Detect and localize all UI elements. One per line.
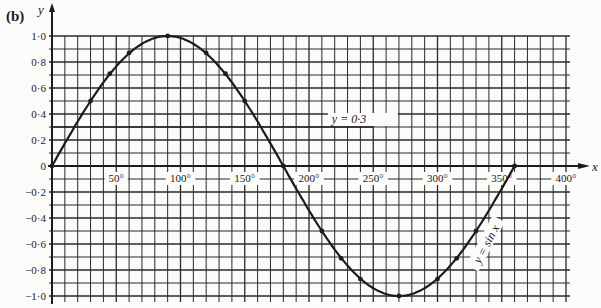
- y-tick-label: −0·4: [25, 212, 46, 224]
- data-point: [50, 164, 55, 169]
- y-tick-label: −0·8: [25, 264, 46, 276]
- line-label-y-equals-0-3: y = 0·3: [331, 112, 366, 126]
- data-point: [242, 99, 247, 104]
- x-tick-label: 400°: [556, 172, 577, 184]
- x-tick-label: 100°: [170, 172, 191, 184]
- data-point: [127, 51, 132, 56]
- x-tick-label: 150°: [234, 172, 255, 184]
- data-point: [319, 229, 324, 234]
- data-point: [107, 71, 112, 76]
- x-tick-label: 300°: [427, 172, 448, 184]
- grid-lines: [49, 36, 570, 302]
- data-point: [165, 34, 170, 39]
- data-point: [397, 294, 402, 299]
- data-point: [454, 256, 459, 261]
- data-point: [435, 277, 440, 282]
- y-axis-label: y: [36, 2, 44, 17]
- sine-chart: yx 1·00·80·60·40·20−0·2−0·4−0·6−0·8−1·05…: [0, 0, 601, 308]
- x-tick-label: 250°: [363, 172, 384, 184]
- x-tick-label: 50°: [109, 172, 124, 184]
- y-tick-label: −0·6: [25, 238, 46, 250]
- data-point: [88, 99, 93, 104]
- x-axis-label: x: [591, 159, 598, 174]
- data-point: [339, 256, 344, 261]
- data-point: [223, 71, 228, 76]
- y-tick-label: 0·6: [31, 82, 46, 94]
- data-point: [474, 229, 479, 234]
- x-axis-arrow-icon: [578, 163, 590, 169]
- y-tick-label: −1·0: [25, 290, 46, 302]
- data-point: [204, 51, 209, 56]
- data-point: [281, 164, 286, 169]
- y-axis-arrow-icon: [49, 3, 55, 12]
- data-point: [358, 277, 363, 282]
- y-tick-label: −0·2: [25, 186, 46, 198]
- y-tick-label: 1·0: [31, 30, 46, 42]
- y-tick-label: 0·4: [31, 108, 46, 120]
- y-tick-label: 0·8: [31, 56, 46, 68]
- x-tick-label: 200°: [299, 172, 320, 184]
- y-tick-label: 0·2: [31, 134, 46, 146]
- data-point: [512, 164, 517, 169]
- y-tick-label: 0: [41, 160, 47, 172]
